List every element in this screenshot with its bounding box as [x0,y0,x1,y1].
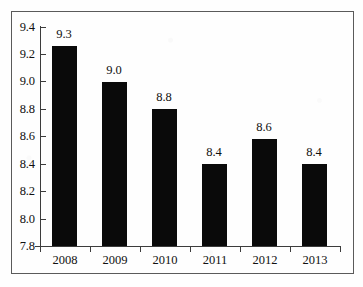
x-tick-mark [290,247,291,252]
x-tick-mark [140,247,141,252]
x-tick-label-2012: 2012 [242,253,288,268]
x-tick-mark [190,247,191,252]
y-tick-mark [41,54,46,55]
x-tick-label-2010: 2010 [142,253,188,268]
bar-2012 [252,139,277,246]
x-tick-mark [40,247,41,252]
bar-2013 [302,164,327,246]
y-tick-label: 8.8 [9,102,35,117]
x-tick-mark [240,247,241,252]
y-tick-mark [41,219,46,220]
x-tick-mark [90,247,91,252]
x-tick-label-2013: 2013 [292,253,338,268]
plot-area: 9.4 9.2 9.0 8.8 8.6 8.4 8.2 8.0 7.8 9.3 … [0,0,363,287]
bar-value-2010: 8.8 [144,90,184,105]
y-tick-label: 8.4 [9,157,35,172]
x-tick-mark [340,247,341,252]
y-tick-mark [41,136,46,137]
y-tick-label: 9.4 [9,20,35,35]
y-tick-mark [41,191,46,192]
y-tick-label: 8.2 [9,184,35,199]
bar-value-2013: 8.4 [294,145,334,160]
y-tick-label: 9.0 [9,74,35,89]
y-tick-mark [41,164,46,165]
y-tick-mark [41,81,46,82]
y-tick-mark [41,109,46,110]
bar-value-2012: 8.6 [244,120,284,135]
bar-2011 [202,164,227,246]
bar-value-2011: 8.4 [194,145,234,160]
y-tick-label: 8.6 [9,129,35,144]
y-tick-label: 8.0 [9,212,35,227]
y-tick-label: 9.2 [9,47,35,62]
bar-value-2009: 9.0 [94,63,134,78]
bar-2009 [102,82,127,246]
x-tick-label-2008: 2008 [42,253,88,268]
chart-figure: 9.4 9.2 9.0 8.8 8.6 8.4 8.2 8.0 7.8 9.3 … [0,0,363,287]
bar-2010 [152,109,177,246]
bar-2008 [52,46,77,246]
y-tick-label: 7.8 [9,239,35,254]
bar-value-2008: 9.3 [44,27,84,42]
x-tick-label-2011: 2011 [192,253,238,268]
x-tick-label-2009: 2009 [92,253,138,268]
